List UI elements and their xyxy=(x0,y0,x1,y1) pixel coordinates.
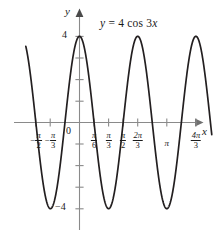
x-tick-label: π xyxy=(165,133,170,149)
trig-graph-figure: y x y = 4 cos 3x 0 4 −4 −π2−π3π6π3π22π3π… xyxy=(0,0,215,242)
x-tick-fraction: π2 xyxy=(36,131,42,150)
x-tick-denominator: 3 xyxy=(105,141,111,150)
equation-equals: = xyxy=(105,17,118,29)
x-tick-label: π3 xyxy=(105,131,111,150)
x-tick-fraction: π6 xyxy=(91,131,97,150)
x-tick-label: −π3 xyxy=(44,131,56,150)
x-tick-denominator: 2 xyxy=(120,141,126,150)
x-tick-fraction: π3 xyxy=(50,131,56,150)
equation-variable: x xyxy=(152,17,157,29)
x-tick-denominator: 6 xyxy=(91,141,97,150)
x-axis-label: x xyxy=(202,126,207,137)
y-axis-label: y xyxy=(65,6,70,17)
x-tick-label: π2 xyxy=(120,131,126,150)
x-tick-fraction: 2π3 xyxy=(132,131,143,150)
x-tick-label: π6 xyxy=(91,131,97,150)
y-min-label: −4 xyxy=(55,202,66,212)
x-tick-fraction: 4π3 xyxy=(191,131,202,150)
x-tick-denominator: 3 xyxy=(132,141,143,150)
x-tick-denominator: 3 xyxy=(50,141,56,150)
x-tick-label: 4π3 xyxy=(191,131,202,150)
equation-annotation: y = 4 cos 3x xyxy=(100,18,157,30)
x-tick-label: −π2 xyxy=(30,131,42,150)
y-max-label: 4 xyxy=(62,30,67,40)
x-tick-denominator: 2 xyxy=(36,141,42,150)
x-tick-fraction: π3 xyxy=(105,131,111,150)
origin-label: 0 xyxy=(66,126,71,136)
x-tick-value: π xyxy=(165,138,170,148)
x-tick-denominator: 3 xyxy=(191,141,202,150)
graph-canvas xyxy=(0,0,215,242)
x-tick-label: 2π3 xyxy=(132,131,143,150)
equation-rhs: 4 cos 3 xyxy=(118,17,152,29)
x-tick-fraction: π2 xyxy=(120,131,126,150)
y-axis-arrow-icon xyxy=(76,9,84,18)
